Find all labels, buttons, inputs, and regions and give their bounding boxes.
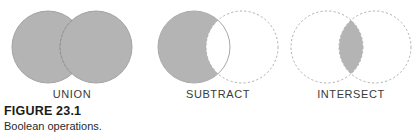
intersect-venn-svg: [285, 0, 417, 100]
figure-container: UNION SUBTRACT: [0, 0, 420, 137]
figure-caption-title: FIGURE 23.1: [4, 104, 244, 118]
subtract-venn-svg: [152, 0, 284, 100]
figure-caption: FIGURE 23.1 Boolean operations.: [4, 104, 244, 133]
operation-label-subtract: SUBTRACT: [152, 88, 284, 100]
union-venn-svg: [6, 0, 138, 100]
figure-caption-text: Boolean operations.: [4, 119, 244, 133]
boolean-operations-diagram-row: UNION SUBTRACT: [0, 0, 420, 100]
operation-subtract: SUBTRACT: [152, 0, 284, 100]
operation-intersect: INTERSECT: [285, 0, 417, 100]
operation-label-union: UNION: [6, 88, 138, 100]
operation-union: UNION: [6, 0, 138, 100]
operation-label-intersect: INTERSECT: [285, 88, 417, 100]
